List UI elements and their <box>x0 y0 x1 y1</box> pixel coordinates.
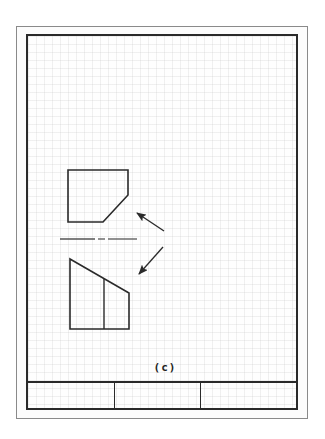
title-block <box>26 381 298 410</box>
arrow-lower-icon <box>139 247 163 274</box>
front-view-outline <box>70 259 129 329</box>
top-view-outline <box>68 170 128 222</box>
title-block-cell-2 <box>114 383 200 410</box>
arrow-upper-icon <box>137 213 164 231</box>
title-block-cell-3 <box>200 383 294 410</box>
title-block-cell-1 <box>26 383 114 410</box>
figure-caption: (c) <box>150 361 180 374</box>
